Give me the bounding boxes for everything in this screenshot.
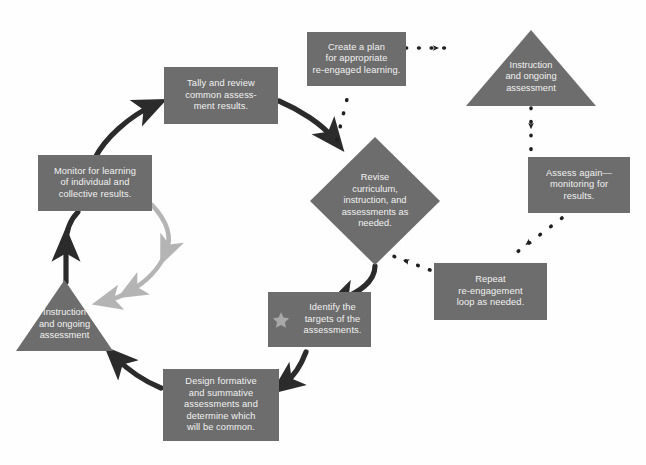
node-label: Monitor for learning of individual and c… [49, 166, 141, 201]
node-label: Assess again— monitoring for results. [541, 168, 617, 203]
node-revise-curriculum[interactable]: Revise curriculum, instruction, and asse… [310, 137, 440, 265]
connector-monitor-to-tally [95, 106, 152, 158]
node-label: Create a plan for appropriate re-engaged… [308, 42, 406, 77]
node-tally-and-review[interactable]: Tally and review common assess- ment res… [164, 67, 278, 124]
node-design-formative[interactable]: Design formative and summative assessmen… [163, 369, 279, 441]
node-label: Revise curriculum, instruction, and asse… [310, 172, 440, 230]
connector-inner-feedback [106, 205, 169, 301]
node-instruction-right[interactable]: Instruction and ongoing assessment [466, 30, 596, 106]
node-label: Instruction and ongoing assessment [16, 307, 113, 342]
node-label: Design formative and summative assessmen… [179, 376, 263, 434]
node-instruction-left[interactable]: Instruction and ongoing assessment [16, 280, 113, 351]
node-create-a-plan[interactable]: Create a plan for appropriate re-engaged… [307, 32, 406, 86]
connector-tally-to-revise [279, 101, 334, 139]
star-icon [272, 311, 290, 329]
node-label: Instruction and ongoing assessment [466, 60, 596, 95]
connector-monitor-stem [66, 212, 78, 244]
node-label: Repeat re-engagement loop as needed. [452, 274, 530, 309]
node-assess-again[interactable]: Assess again— monitoring for results. [528, 157, 630, 213]
connector-design-to-instruction-left [116, 358, 161, 388]
connector-assess-again-to-repeat [508, 218, 562, 259]
node-label: Tally and review common assess- ment res… [180, 78, 262, 113]
node-identify-targets[interactable]: Identify the targets of the assessments. [268, 292, 371, 347]
node-repeat-loop[interactable]: Repeat re-engagement loop as needed. [434, 263, 547, 320]
connector-revise-to-create-plan [337, 95, 348, 140]
connector-identify-to-design [284, 352, 306, 384]
node-label: Identify the targets of the assessments. [293, 302, 371, 337]
diagram-canvas: Tally and review common assess- ment res… [0, 0, 646, 465]
node-monitor-for-learning[interactable]: Monitor for learning of individual and c… [38, 155, 152, 211]
